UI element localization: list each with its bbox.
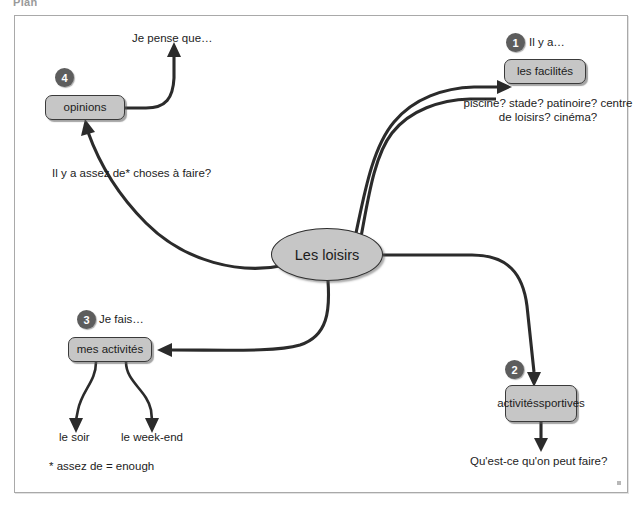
node-activites-sportives-line2: sportives (539, 397, 585, 410)
label-facilites-examples: piscine? stade? patinoire? centre de loi… (463, 96, 633, 124)
central-node[interactable]: Les loisirs (271, 228, 383, 281)
node-activites-sportives-line1: activités (497, 397, 539, 410)
badge-1: 1 (506, 33, 525, 52)
page-caption: Plan (13, 0, 37, 7)
label-le-week-end: le week-end (121, 430, 183, 444)
badge-3: 3 (77, 310, 96, 329)
label-je-fais: Je fais… (99, 312, 144, 326)
label-je-pense-que: Je pense que… (132, 31, 213, 45)
node-mes-activites[interactable]: mes activités (68, 337, 152, 362)
node-les-facilites[interactable]: les facilités (504, 59, 586, 84)
label-quest-ce-quon-peut-faire: Qu'est-ce qu'on peut faire? (470, 454, 607, 468)
label-assez-de-choses: Il y a assez de* choses à faire? (52, 166, 211, 180)
label-il-y-a: Il y a… (529, 35, 565, 49)
badge-2: 2 (505, 360, 524, 379)
footnote-assez-de: * assez de = enough (49, 459, 154, 473)
corner-mark (617, 481, 621, 485)
node-activites-sportives[interactable]: activités sportives (505, 385, 577, 422)
node-opinions[interactable]: opinions (45, 95, 125, 120)
badge-4: 4 (55, 68, 74, 87)
label-le-soir: le soir (59, 430, 90, 444)
